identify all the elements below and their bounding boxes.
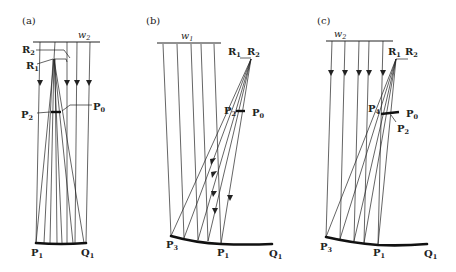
ray xyxy=(163,44,171,236)
label-p1: P1 xyxy=(217,247,229,260)
label-p0: P0 xyxy=(406,108,419,121)
ray xyxy=(75,42,77,243)
arrow-down-icon xyxy=(86,80,92,86)
ray xyxy=(54,59,84,243)
label-r2: R2 xyxy=(405,46,418,59)
label-q1: Q1 xyxy=(81,247,94,260)
label-r1: R1 xyxy=(388,46,401,59)
arrow-down-icon xyxy=(342,70,348,76)
wavefront-label: w2 xyxy=(78,29,90,42)
ray xyxy=(214,44,221,244)
arrow-down-icon xyxy=(64,80,70,86)
arrow-down-icon xyxy=(74,80,80,86)
label-r1: R1 xyxy=(26,60,39,73)
panel-b: (b) w1 R1 R2 P2 P0 P3 P1 xyxy=(146,15,282,261)
wavefront-label: w1 xyxy=(181,30,193,43)
label-r2: R2 xyxy=(22,44,35,57)
ray xyxy=(171,59,251,236)
panel-label-b: (b) xyxy=(146,15,160,26)
label-p1: P1 xyxy=(373,247,385,260)
p2-leader xyxy=(391,115,396,122)
arrow-down-icon xyxy=(356,70,362,76)
label-p1: P1 xyxy=(31,247,43,260)
arrow-down-icon xyxy=(328,70,334,76)
r2-leader xyxy=(36,50,70,58)
ray xyxy=(54,42,55,59)
ray xyxy=(86,42,90,243)
arrow-down-icon xyxy=(380,70,386,76)
ray-diagram: (a) w2 R2 R1 xyxy=(0,0,456,272)
label-p2: P2 xyxy=(21,109,33,122)
ray xyxy=(198,59,251,240)
ray xyxy=(208,59,251,241)
mirror xyxy=(36,243,86,244)
ray xyxy=(184,59,251,238)
arrow-icon xyxy=(210,158,216,165)
label-p2: P2 xyxy=(224,105,236,118)
label-r1: R1 xyxy=(228,46,241,59)
panel-c: (c) w2 R1 R2 P4 P0 P2 P3 xyxy=(317,15,437,261)
label-p0: P0 xyxy=(93,101,106,114)
panel-label-a: (a) xyxy=(22,15,36,26)
ray xyxy=(201,44,208,241)
arrow-down-icon xyxy=(37,80,43,86)
label-p0: P0 xyxy=(252,107,265,120)
r1-bracket xyxy=(54,59,67,62)
label-p3: P3 xyxy=(166,239,179,252)
arrow-down-icon xyxy=(366,70,372,76)
wavefront-label: w2 xyxy=(334,28,346,41)
mirror xyxy=(326,237,427,245)
label-r2: R2 xyxy=(247,46,260,59)
label-q1: Q1 xyxy=(269,248,282,261)
label-q1: Q1 xyxy=(424,248,437,261)
panel-label-c: (c) xyxy=(317,15,331,26)
arrow-icon xyxy=(212,208,218,214)
arrow-icon xyxy=(211,191,217,197)
label-p2: P2 xyxy=(397,123,409,136)
panel-a: (a) w2 R2 R1 xyxy=(21,15,106,260)
p0-leader xyxy=(62,105,92,111)
ray xyxy=(364,59,396,243)
label-p3: P3 xyxy=(320,241,333,254)
ray xyxy=(221,59,251,244)
